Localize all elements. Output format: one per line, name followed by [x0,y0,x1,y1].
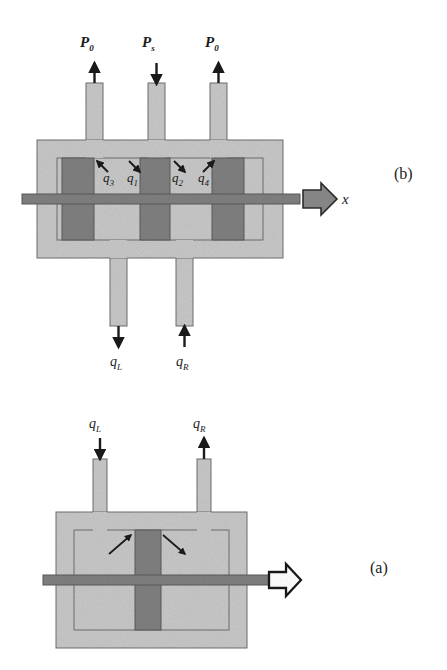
label-Ps-base: Ps [142,34,155,53]
figure-canvas: P0 Ps P0 q3 q1 q2 q4 qL qR x (b) qL qR (… [0,0,447,670]
port-stem-P0-right [210,83,227,145]
sleeve-opening-left [86,140,103,158]
x-direction-arrow [303,183,337,215]
sleeve-opening-bottom-right [176,240,193,258]
label-qR-a: qR [193,416,206,434]
label-qR-b: qR [176,354,189,372]
piston-rod [43,575,270,585]
label-qL-a: qL [89,416,101,434]
spool-rod [22,194,300,204]
sleeve-opening-center [148,140,165,158]
port-stem-P0-left [86,83,103,145]
panel-b [22,83,337,326]
label-P0-left-base: P0 [80,34,94,53]
cyl-port-stem-qL [93,459,107,515]
label-P0-right-base: P0 [205,34,219,53]
cyl-port-stem-qR [197,459,211,515]
sleeve-opening-bottom-left [110,240,127,258]
panel-tag-a: (a) [370,559,388,577]
piston-direction-arrow [269,564,301,596]
label-qL-b: qL [110,354,122,372]
label-x-direction: x [341,191,349,207]
panel-tag-b: (b) [394,165,413,183]
port-stem-Ps [148,83,165,145]
sleeve-opening-right [210,140,227,158]
panel-a [43,459,301,648]
chamber-opening-left [93,512,107,531]
chamber-opening-right [197,512,211,531]
